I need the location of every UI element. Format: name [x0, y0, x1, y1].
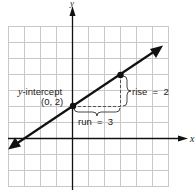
- rise-label: rise = 2: [132, 86, 169, 97]
- line-arrow-down-icon: [8, 138, 21, 150]
- slope-diagram: y x y-intercept (0, 2) run = 3 rise = 2: [0, 0, 195, 190]
- x-axis: x: [8, 133, 195, 144]
- y-axis-label: y: [69, 0, 74, 8]
- linear-function-line: [8, 46, 163, 150]
- x-axis-label: x: [189, 133, 195, 144]
- run-label: run = 3: [78, 116, 113, 127]
- line-arrow-up-icon: [150, 46, 163, 59]
- y-intercept-label: y-intercept (0, 2): [17, 86, 63, 107]
- y-intercept-coords: (0, 2): [41, 96, 63, 107]
- run-brace: [74, 108, 120, 116]
- y-intercept-point: [70, 103, 76, 109]
- y-axis: y: [69, 0, 76, 190]
- x-axis-arrow-icon: [178, 136, 188, 142]
- second-point: [117, 72, 123, 78]
